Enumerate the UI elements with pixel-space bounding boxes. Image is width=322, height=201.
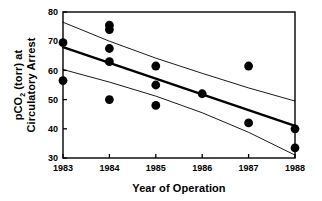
data-point: [244, 119, 253, 128]
y-tick-label-60: 60: [48, 66, 58, 76]
y-tick-label-70: 70: [48, 36, 58, 46]
chart-figure: 304050607080 198319841985198619871988 Ye…: [0, 0, 322, 201]
x-tick-label-1984: 1984: [99, 163, 119, 173]
data-point: [105, 57, 114, 66]
data-point: [105, 44, 114, 53]
y-axis-title-units: (torr) at: [12, 49, 24, 92]
y-axis-title-line1: pCO2 (torr) at: [12, 49, 26, 120]
y-tick-label-50: 50: [48, 95, 58, 105]
y-axis-title-line2: Circulatory Arrest: [25, 37, 37, 132]
y-axis-tick-labels: 304050607080: [48, 7, 58, 163]
data-point: [291, 143, 300, 152]
x-tick-label-1987: 1987: [239, 163, 259, 173]
data-point: [59, 76, 68, 85]
y-tick-label-80: 80: [48, 7, 58, 17]
y-tick-label-40: 40: [48, 124, 58, 134]
data-point: [198, 89, 207, 98]
x-axis-title: Year of Operation: [132, 182, 226, 194]
data-point: [151, 81, 160, 90]
data-point: [244, 62, 253, 71]
data-point: [151, 101, 160, 110]
y-axis-title-pco: pCO: [12, 96, 24, 120]
data-point: [105, 95, 114, 104]
data-point: [59, 38, 68, 47]
x-tick-label-1985: 1985: [146, 163, 166, 173]
y-tick-label-30: 30: [48, 153, 58, 163]
x-tick-label-1988: 1988: [285, 163, 305, 173]
plot-frame: [63, 12, 295, 158]
data-point: [105, 25, 114, 34]
x-tick-label-1983: 1983: [53, 163, 73, 173]
data-point: [151, 62, 160, 71]
x-axis-tick-labels: 198319841985198619871988: [53, 163, 305, 173]
x-tick-label-1986: 1986: [192, 163, 212, 173]
y-axis-title: pCO2 (torr) at Circulatory Arrest: [12, 37, 37, 132]
scatter-plot: 304050607080 198319841985198619871988 Ye…: [0, 0, 322, 201]
data-point: [291, 124, 300, 133]
